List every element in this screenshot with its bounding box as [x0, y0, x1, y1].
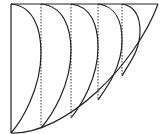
- dotted-guides: [41, 4, 122, 128]
- inner-arc-5: [122, 4, 140, 76]
- inner-arcs: [11, 4, 140, 133]
- outer-curve: [11, 4, 158, 133]
- inner-arc-2: [41, 4, 71, 128]
- inner-arc-1: [11, 4, 41, 133]
- inner-arc-3: [71, 4, 98, 118]
- frame: [11, 4, 158, 133]
- outer-curve-path: [11, 4, 158, 133]
- inner-arc-4: [98, 4, 122, 100]
- geometric-diagram: [0, 0, 165, 134]
